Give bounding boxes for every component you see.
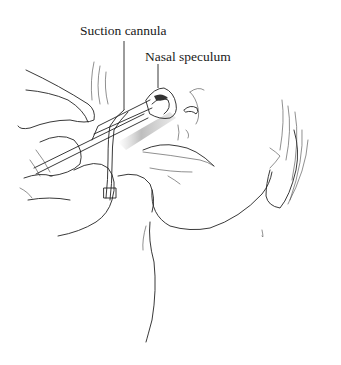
face: [143, 88, 308, 342]
label-suction-cannula: Suction cannula: [80, 24, 167, 38]
label-nasal-speculum: Nasal speculum: [145, 50, 231, 64]
illustration-canvas: Suction cannula Nasal speculum: [0, 0, 341, 365]
